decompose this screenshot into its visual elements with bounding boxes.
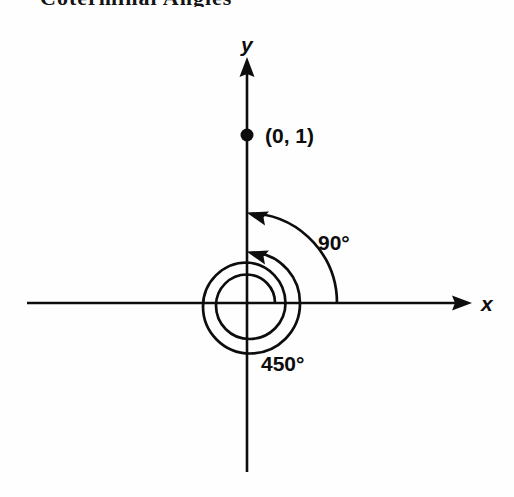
x-axis-label: x: [480, 292, 494, 315]
point-marker-0-1: [241, 129, 254, 142]
angle-90-arc: [256, 214, 337, 304]
y-axis-label: y: [240, 33, 254, 56]
coordinate-plane-diagram: x y (0, 1) 90° 450°: [0, 0, 514, 497]
point-label-0-1: (0, 1): [265, 124, 314, 147]
angle-450-group: 450°: [203, 251, 304, 376]
angle-450-label: 450°: [261, 352, 304, 375]
angle-90-arrowhead-icon: [247, 212, 270, 226]
figure-root: Coterminal Angles x y (0, 1) 90°: [0, 0, 514, 497]
point-0-1-group: (0, 1): [241, 124, 315, 147]
y-axis-arrowhead-icon: [240, 57, 255, 77]
x-axis-arrowhead-icon: [452, 296, 472, 311]
angle-90-label: 90°: [318, 231, 350, 254]
x-axis-group: x: [27, 292, 494, 315]
